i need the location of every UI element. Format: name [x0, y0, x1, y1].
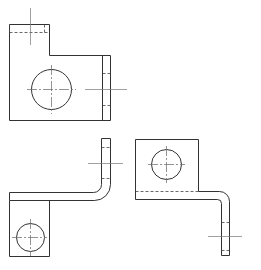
- bottom-right-plate-outline: [136, 140, 230, 256]
- bottom-left-view: [10, 139, 124, 257]
- bottom-left-flange-outline: [10, 139, 111, 201]
- technical-drawing: [0, 0, 261, 270]
- bottom-left-block-outline: [10, 201, 50, 257]
- bottom-right-view: [136, 140, 243, 256]
- front-view-outline: [10, 25, 111, 121]
- front-view: [10, 8, 128, 121]
